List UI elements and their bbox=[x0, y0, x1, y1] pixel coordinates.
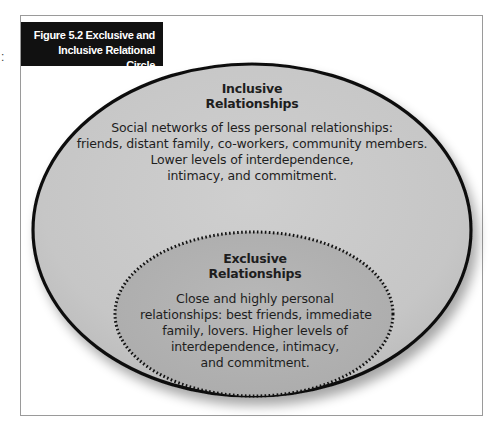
figure-title-line-2: Inclusive Relational Circle bbox=[27, 43, 155, 73]
exclusive-relationships-circle bbox=[115, 232, 393, 396]
figure-title: Figure 5.2 Exclusive and Inclusive Relat… bbox=[21, 22, 163, 66]
figure-title-line-1: Figure 5.2 Exclusive and bbox=[27, 28, 155, 43]
